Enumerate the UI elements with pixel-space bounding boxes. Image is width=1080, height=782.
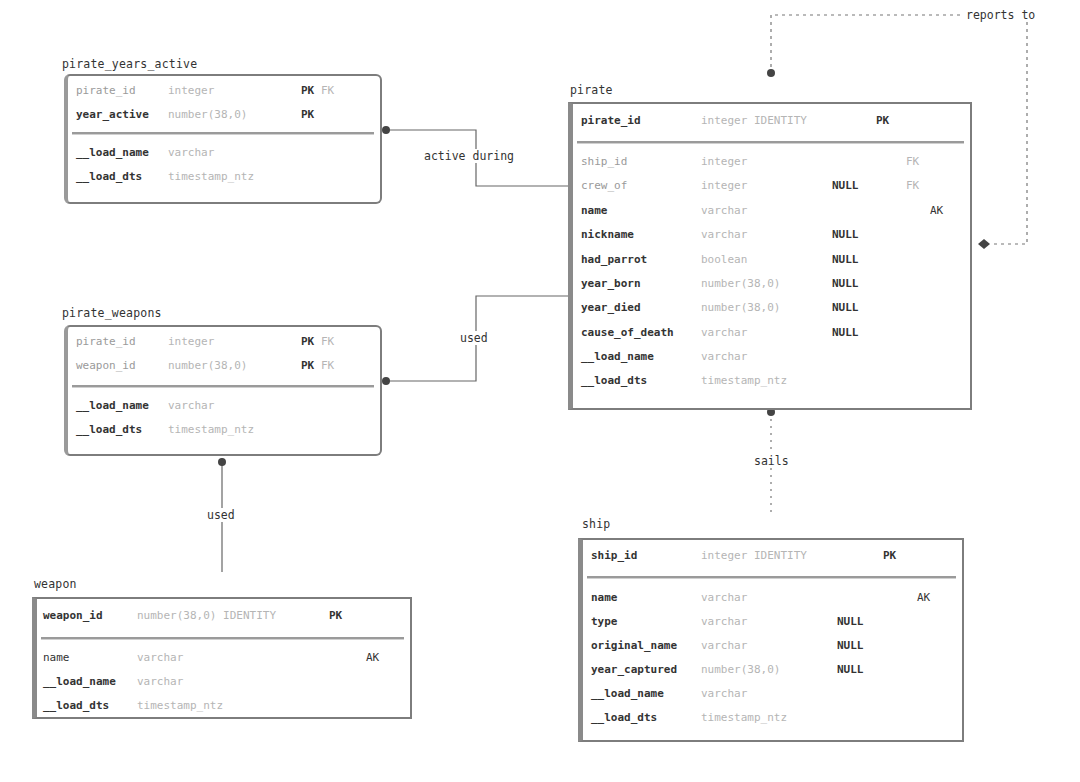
table-row: ship_id integer FK	[573, 151, 970, 173]
table-row: weapon_id number(38,0) PK FK	[68, 355, 380, 377]
table-pirate-weapons[interactable]: pirate_id integer PK FK weapon_id number…	[64, 325, 382, 456]
table-row: year_active number(38,0) PK	[68, 104, 380, 126]
relationship-label-active-during: active during	[422, 149, 516, 163]
relationship-label-used-weapon: used	[205, 508, 237, 522]
table-row: type varchar NULL	[583, 611, 962, 633]
table-row: __load_name varchar	[68, 395, 380, 417]
table-row: pirate_id integer PK FK	[68, 331, 380, 353]
table-row: original_name varchar NULL	[583, 635, 962, 657]
relationship-label-reports-to: reports to	[964, 8, 1037, 22]
table-row: __load_dts timestamp_ntz	[583, 707, 962, 729]
table-title-weapon: weapon	[34, 577, 77, 591]
table-row: __load_name varchar	[37, 671, 410, 693]
table-row: __load_name varchar	[583, 683, 962, 705]
pk-separator	[72, 385, 374, 388]
table-row: __load_dts timestamp_ntz	[573, 370, 970, 392]
table-row: pirate_id integer IDENTITY PK	[573, 110, 970, 132]
table-weapon[interactable]: weapon_id number(38,0) IDENTITY PK name …	[32, 597, 412, 719]
table-row: __load_dts timestamp_ntz	[68, 166, 380, 188]
pk-separator	[41, 637, 404, 640]
table-title-pirate-weapons: pirate_weapons	[62, 306, 162, 320]
table-row: year_born number(38,0) NULL	[573, 273, 970, 295]
pk-separator	[587, 576, 956, 579]
table-row: __load_dts timestamp_ntz	[68, 419, 380, 441]
relationship-label-sails: sails	[752, 454, 791, 468]
table-row: year_died number(38,0) NULL	[573, 297, 970, 319]
table-title-ship: ship	[582, 517, 611, 531]
table-row: name varchar AK	[37, 647, 410, 669]
table-pirate[interactable]: pirate_id integer IDENTITY PK ship_id in…	[568, 102, 972, 410]
table-row: name varchar AK	[583, 587, 962, 609]
table-ship[interactable]: ship_id integer IDENTITY PK name varchar…	[578, 538, 964, 742]
table-row: __load_name varchar	[68, 142, 380, 164]
pk-separator	[72, 132, 374, 135]
pk-separator	[577, 141, 964, 144]
table-row: __load_dts timestamp_ntz	[37, 695, 410, 717]
table-row: pirate_id integer PK FK	[68, 80, 380, 102]
table-row: __load_name varchar	[573, 346, 970, 368]
table-pirate-years-active[interactable]: pirate_id integer PK FK year_active numb…	[64, 74, 382, 204]
table-row: cause_of_death varchar NULL	[573, 322, 970, 344]
table-title-pirate-years-active: pirate_years_active	[62, 57, 197, 71]
table-row: had_parrot boolean NULL	[573, 249, 970, 271]
relationship-label-used-pirate: used	[458, 331, 490, 345]
table-row: weapon_id number(38,0) IDENTITY PK	[37, 605, 410, 627]
table-row: name varchar AK	[573, 200, 970, 222]
table-row: crew_of integer NULL FK	[573, 175, 970, 197]
table-row: ship_id integer IDENTITY PK	[583, 545, 962, 567]
table-row: nickname varchar NULL	[573, 224, 970, 246]
table-row: year_captured number(38,0) NULL	[583, 659, 962, 681]
table-title-pirate: pirate	[570, 83, 613, 97]
